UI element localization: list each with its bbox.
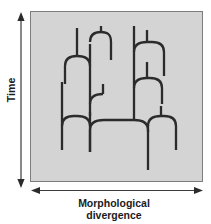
panel-background <box>31 12 203 182</box>
divergence-axis-label-line2: divergence <box>24 210 204 222</box>
divergence-axis-arrow <box>31 187 203 194</box>
divergence-axis-label-line1: Morphological <box>24 198 204 210</box>
time-axis-label: Time <box>5 70 17 110</box>
figure-canvas <box>0 0 211 224</box>
phylogeny-figure: Time Morphological divergence <box>0 0 211 224</box>
time-axis-arrow <box>17 12 24 188</box>
divergence-axis-label: Morphological divergence <box>24 198 204 221</box>
